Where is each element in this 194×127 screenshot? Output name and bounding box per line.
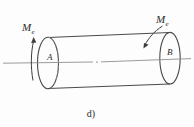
moment-right-symbol: M: [155, 13, 166, 25]
axis-center-dot: [96, 61, 98, 63]
torque-arrow-left-head: [31, 37, 36, 43]
cross-section-b-ellipse: [160, 32, 180, 84]
node-label-a: A: [46, 52, 53, 62]
axis-centerline-right: [101, 59, 191, 62]
cylinder-bottom-edge: [48, 84, 170, 89]
moment-left-subscript: e: [32, 28, 35, 36]
figure-canvas: M e M e A B d): [0, 0, 194, 127]
torque-arrow-right-arc: [145, 26, 163, 45]
moment-right-subscript: e: [166, 20, 169, 28]
node-label-b: B: [167, 47, 173, 57]
torsion-shaft-figure: M e M e A B d): [0, 0, 194, 127]
moment-left-symbol: M: [21, 21, 32, 33]
torque-arrow-left-arc: [31, 41, 33, 81]
axis-centerline-left: [3, 62, 93, 63]
figure-caption: d): [87, 108, 95, 120]
torque-arrow-right-head: [143, 43, 148, 49]
